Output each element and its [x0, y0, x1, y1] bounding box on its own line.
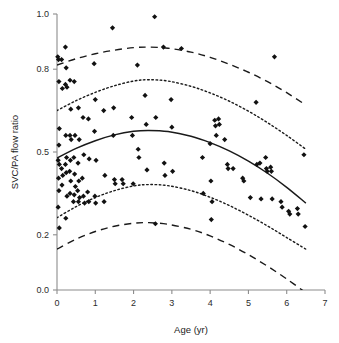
data-point-marker [76, 199, 81, 204]
data-point-marker [75, 188, 80, 193]
data-point-marker [169, 125, 174, 130]
data-point-marker [93, 158, 98, 163]
regression-curves-group [57, 47, 306, 293]
scatter-plot-figure: 0.00.20.50.81.001234567Age (yr)SVC/PA fl… [0, 0, 339, 343]
data-point-marker [72, 79, 77, 84]
data-point-marker [67, 78, 72, 83]
data-point-marker [144, 167, 149, 172]
data-point-marker [225, 162, 230, 167]
y-tick-label: 0.5 [36, 147, 49, 157]
data-point-marker [208, 178, 213, 183]
data-point-marker [60, 86, 65, 91]
data-point-marker [59, 166, 64, 171]
chart-canvas: 0.00.20.50.81.001234567Age (yr)SVC/PA fl… [0, 0, 339, 343]
data-point-marker [76, 105, 81, 110]
data-point-marker [170, 169, 175, 174]
data-point-marker [77, 137, 82, 142]
data-point-marker [152, 14, 157, 19]
data-point-marker [129, 115, 134, 120]
x-tick-label: 7 [322, 298, 327, 308]
x-tick-label: 6 [284, 298, 289, 308]
data-point-marker [136, 147, 141, 152]
data-point-marker [111, 105, 116, 110]
data-point-marker [226, 166, 231, 171]
data-point-marker [214, 133, 219, 138]
data-point-marker [168, 97, 173, 102]
data-point-marker [162, 160, 167, 165]
data-point-marker [63, 216, 68, 221]
data-point-marker [142, 93, 147, 98]
data-point-marker [248, 195, 253, 200]
data-point-marker [59, 57, 64, 62]
data-point-marker [87, 156, 92, 161]
data-point-marker [93, 200, 98, 205]
data-point-marker [253, 100, 258, 105]
data-point-marker [64, 65, 69, 70]
x-tick-label: 5 [246, 298, 251, 308]
data-point-marker [278, 199, 283, 204]
regression-curve-lower-95-bound [57, 223, 306, 293]
data-point-marker [110, 25, 115, 30]
data-point-marker [295, 206, 300, 211]
data-point-marker [86, 116, 91, 121]
x-tick-label: 2 [131, 298, 136, 308]
data-point-marker [80, 115, 85, 120]
data-point-marker [280, 205, 285, 210]
x-tick-label: 0 [54, 298, 59, 308]
x-tick-label: 4 [208, 298, 213, 308]
data-point-marker [153, 115, 158, 120]
data-point-marker [161, 45, 166, 50]
data-point-marker [69, 137, 74, 142]
data-point-marker [153, 221, 158, 226]
data-point-marker [68, 107, 73, 112]
data-point-marker [59, 183, 64, 188]
data-point-marker [112, 177, 117, 182]
data-point-marker [92, 61, 97, 66]
data-point-marker [63, 45, 68, 50]
y-tick-label: 0.2 [36, 230, 49, 240]
data-point-marker [67, 133, 72, 138]
x-tick-label: 3 [169, 298, 174, 308]
data-point-marker [231, 166, 236, 171]
data-point-marker [56, 158, 61, 163]
data-point-marker [73, 184, 78, 189]
data-point-marker [72, 171, 77, 176]
data-point-marker [136, 155, 141, 160]
y-tick-label: 1.0 [36, 9, 49, 19]
x-tick-label: 1 [93, 298, 98, 308]
data-point-marker [302, 224, 307, 229]
data-points-group [55, 14, 308, 230]
data-point-marker [71, 199, 76, 204]
data-point-marker [81, 152, 86, 157]
data-point-marker [270, 196, 275, 201]
regression-curve-upper-quartile-bound [57, 80, 306, 150]
data-point-marker [68, 178, 73, 183]
data-point-marker [92, 194, 97, 199]
data-point-marker [56, 205, 61, 210]
regression-curve-upper-95-bound [57, 47, 306, 105]
data-point-marker [101, 199, 106, 204]
data-point-marker [111, 133, 116, 138]
data-point-marker [258, 196, 263, 201]
data-point-marker [72, 192, 77, 197]
y-axis-title: SVC/PA flow ratio [9, 115, 20, 189]
data-point-marker [121, 181, 126, 186]
data-point-marker [63, 162, 68, 167]
data-point-marker [272, 54, 277, 59]
data-point-marker [222, 137, 227, 142]
data-point-marker [64, 155, 69, 160]
data-point-marker [101, 108, 106, 113]
data-point-marker [268, 165, 273, 170]
data-point-marker [144, 122, 149, 127]
data-point-marker [102, 173, 107, 178]
data-point-marker [209, 199, 214, 204]
data-point-marker [296, 212, 301, 217]
data-point-marker [263, 155, 268, 160]
data-point-marker [162, 173, 167, 178]
axes-group [53, 14, 325, 294]
data-point-marker [200, 155, 205, 160]
data-point-marker [119, 177, 124, 182]
data-point-marker [135, 62, 140, 67]
y-tick-label: 0.0 [36, 285, 49, 295]
data-point-marker [72, 133, 77, 138]
